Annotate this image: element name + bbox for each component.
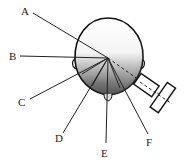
label-A: A	[21, 5, 29, 17]
label-C: C	[18, 96, 25, 108]
head-diagram: A B C D E F	[0, 0, 188, 164]
label-E: E	[101, 147, 108, 159]
label-B: B	[9, 50, 16, 62]
chin-knob	[104, 94, 112, 101]
label-F: F	[146, 136, 152, 148]
label-D: D	[55, 132, 63, 144]
